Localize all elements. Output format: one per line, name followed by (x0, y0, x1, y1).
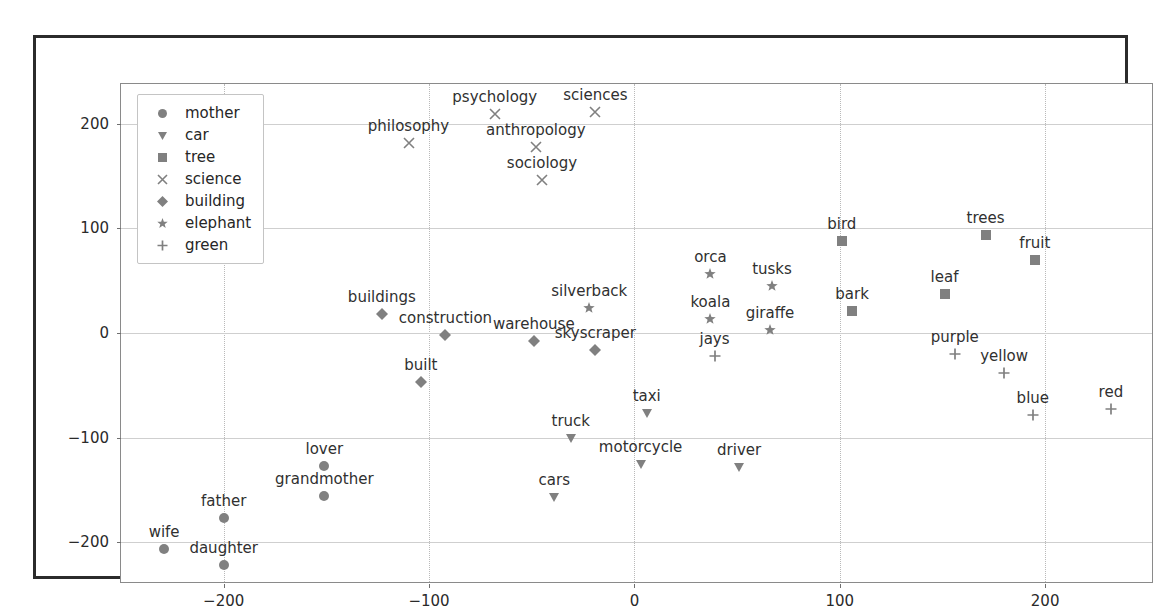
legend-item-label: tree (185, 148, 215, 166)
data-point-triangle-down[interactable] (734, 462, 744, 472)
point-label: grandmother (275, 470, 373, 488)
figure-frame: wifedaughterfathergrandmotherlovercarstr… (33, 35, 1128, 579)
data-point-x[interactable] (489, 108, 501, 120)
point-label: truck (552, 412, 591, 430)
data-point-triangle-down[interactable] (642, 408, 652, 418)
point-label: red (1099, 383, 1124, 401)
y-tick-mark (117, 124, 121, 125)
figure-canvas: wifedaughterfathergrandmotherlovercarstr… (0, 0, 1155, 616)
y-tick-mark (117, 438, 121, 439)
data-point-diamond[interactable] (439, 329, 451, 341)
legend-box[interactable]: mothercartreesciencebuildingelephantgree… (137, 94, 264, 264)
data-point-plus[interactable] (709, 350, 721, 362)
legend-item-label: elephant (185, 214, 251, 232)
point-label: philosophy (368, 117, 449, 135)
x-tick-label: 0 (630, 592, 640, 610)
scatter-plot-axes[interactable]: wifedaughterfathergrandmotherlovercarstr… (120, 83, 1153, 583)
x-tick-label: 200 (1031, 592, 1060, 610)
data-point-triangle-down[interactable] (566, 433, 576, 443)
data-point-star[interactable] (583, 302, 595, 314)
data-point-triangle-down[interactable] (636, 459, 646, 469)
data-point-star[interactable] (766, 280, 778, 292)
data-point-circle[interactable] (319, 461, 329, 471)
y-tick-label: −200 (45, 533, 109, 551)
data-point-circle[interactable] (159, 544, 169, 554)
x-tick-mark (634, 584, 635, 588)
data-point-x[interactable] (589, 106, 601, 118)
point-label: motorcycle (599, 438, 682, 456)
data-point-x[interactable] (536, 174, 548, 186)
y-tick-label: 0 (45, 324, 109, 342)
x-tick-label: 100 (825, 592, 854, 610)
data-point-star[interactable] (764, 324, 776, 336)
y-gridline (121, 228, 1152, 229)
y-tick-mark (117, 542, 121, 543)
point-label: built (404, 356, 437, 374)
data-point-diamond[interactable] (376, 308, 388, 320)
point-label: construction (399, 309, 492, 327)
point-label: psychology (452, 88, 537, 106)
legend-item-building[interactable]: building (147, 190, 251, 212)
x-tick-mark (1045, 584, 1046, 588)
point-label: tusks (752, 260, 792, 278)
data-point-circle[interactable] (219, 513, 229, 523)
point-label: sociology (507, 154, 577, 172)
y-tick-mark (117, 333, 121, 334)
legend-item-mother[interactable]: mother (147, 102, 251, 124)
data-point-square[interactable] (1030, 255, 1040, 265)
data-point-x[interactable] (530, 141, 542, 153)
legend-item-label: car (185, 126, 209, 144)
legend-item-elephant[interactable]: elephant (147, 212, 251, 234)
point-label: wife (149, 523, 180, 541)
x-tick-mark (429, 584, 430, 588)
point-label: driver (717, 441, 761, 459)
data-point-square[interactable] (847, 306, 857, 316)
y-gridline (121, 438, 1152, 439)
point-label: buildings (348, 288, 416, 306)
y-tick-mark (117, 228, 121, 229)
data-point-square[interactable] (837, 236, 847, 246)
legend-item-label: science (185, 170, 241, 188)
y-tick-label: 200 (45, 115, 109, 133)
point-label: purple (931, 328, 979, 346)
data-point-diamond[interactable] (589, 344, 601, 356)
triangle-down-icon (147, 131, 177, 140)
data-point-square[interactable] (940, 289, 950, 299)
data-point-plus[interactable] (998, 367, 1010, 379)
point-label: yellow (980, 347, 1028, 365)
data-point-plus[interactable] (1105, 403, 1117, 415)
legend-item-label: mother (185, 104, 240, 122)
circle-icon (147, 109, 177, 118)
legend-item-label: green (185, 236, 228, 254)
data-point-circle[interactable] (219, 560, 229, 570)
legend-item-tree[interactable]: tree (147, 146, 251, 168)
legend-item-science[interactable]: science (147, 168, 251, 190)
plus-icon (147, 240, 177, 251)
point-label: sciences (563, 86, 627, 104)
legend-item-green[interactable]: green (147, 234, 251, 256)
y-tick-label: −100 (45, 429, 109, 447)
x-tick-mark (224, 584, 225, 588)
data-point-circle[interactable] (319, 491, 329, 501)
data-point-plus[interactable] (949, 348, 961, 360)
data-point-square[interactable] (981, 230, 991, 240)
point-label: taxi (633, 387, 661, 405)
data-point-star[interactable] (704, 268, 716, 280)
legend-item-label: building (185, 192, 245, 210)
data-point-star[interactable] (704, 313, 716, 325)
data-point-plus[interactable] (1027, 409, 1039, 421)
data-point-diamond[interactable] (528, 335, 540, 347)
y-gridline (121, 542, 1152, 543)
point-label: orca (694, 248, 726, 266)
y-gridline (121, 333, 1152, 334)
diamond-icon (147, 196, 177, 207)
point-label: trees (967, 209, 1005, 227)
point-label: warehouse (493, 315, 575, 333)
data-point-diamond[interactable] (415, 376, 427, 388)
y-gridline (121, 124, 1152, 125)
y-tick-label: 100 (45, 219, 109, 237)
legend-item-car[interactable]: car (147, 124, 251, 146)
data-point-triangle-down[interactable] (549, 492, 559, 502)
data-point-x[interactable] (403, 137, 415, 149)
point-label: giraffe (746, 304, 795, 322)
